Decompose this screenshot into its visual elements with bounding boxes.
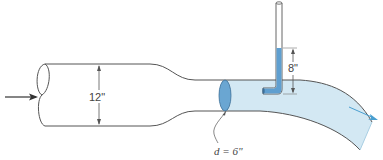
pipe-cut-end <box>37 64 45 126</box>
throat-diameter-label: d = 6" <box>214 145 243 157</box>
dim8-arrow-up-icon <box>291 49 295 55</box>
leader-arrow-icon <box>223 111 227 116</box>
dim-arrow-up-icon <box>97 65 101 71</box>
dim-12-label: 12" <box>89 91 105 103</box>
pitot-inlet <box>262 88 264 94</box>
venturi-diagram: 12" 8" d = 6" <box>0 0 383 160</box>
throat-section <box>219 80 231 111</box>
dim-arrow-down-icon <box>97 119 101 125</box>
pipe-cut-end-back <box>42 64 49 95</box>
water-flow-region <box>225 80 372 150</box>
dim-8-label: 8" <box>288 62 298 74</box>
throat-leader-line <box>214 111 226 143</box>
pitot-tube-top <box>276 2 282 4</box>
